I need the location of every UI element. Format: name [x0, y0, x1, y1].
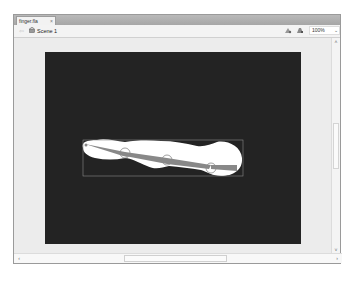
close-tab-icon[interactable]: ×	[50, 17, 53, 25]
scene-icon	[29, 27, 35, 33]
back-arrow-icon[interactable]: ⇦	[19, 27, 24, 34]
scroll-right-button[interactable]: ›	[333, 255, 341, 261]
scroll-left-button[interactable]: ‹	[15, 255, 23, 261]
scene-breadcrumb[interactable]: Scene 1	[37, 27, 57, 35]
horizontal-scrollbar[interactable]: ‹ ›	[14, 253, 342, 263]
chevron-down-icon: ⌄	[334, 27, 338, 34]
vertical-scroll-thumb[interactable]	[333, 123, 339, 169]
vertical-scrollbar[interactable]: ˄ ˅	[331, 38, 340, 254]
stage[interactable]	[45, 52, 301, 244]
scroll-up-button[interactable]: ˄	[332, 39, 340, 45]
document-tab-label: finger.fla	[19, 18, 38, 24]
edit-bar: ⇦ Scene 1 100% ⌄	[14, 25, 340, 38]
document-window: finger.fla × ⇦ Scene 1 100% ⌄	[13, 14, 341, 264]
document-tab-bar: finger.fla ×	[14, 15, 340, 25]
pasteboard[interactable]	[14, 38, 332, 254]
zoom-level-value: 100%	[312, 27, 325, 33]
edit-scene-icon[interactable]	[296, 27, 304, 34]
edit-symbols-icon[interactable]	[284, 27, 292, 34]
horizontal-scroll-thumb[interactable]	[124, 255, 227, 262]
document-tab[interactable]: finger.fla ×	[16, 16, 56, 25]
zoom-level-select[interactable]: 100% ⌄	[309, 26, 340, 35]
finger-armature-shape[interactable]	[45, 52, 301, 244]
